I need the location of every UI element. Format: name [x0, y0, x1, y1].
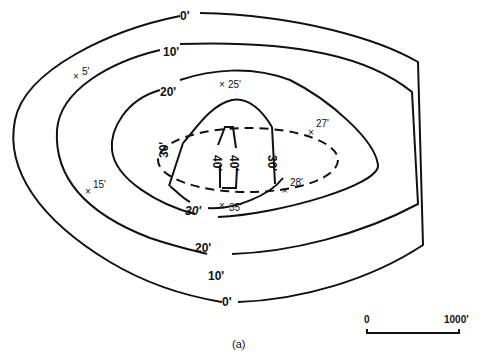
- svg-text:28': 28': [290, 177, 303, 188]
- label-20-bottom: 20': [195, 241, 211, 255]
- spot-25: × 25': [219, 79, 241, 90]
- label-10-top: 10': [163, 45, 179, 59]
- contour-30-left: [169, 143, 183, 186]
- label-20-top: 20': [160, 85, 176, 99]
- svg-text:×: ×: [282, 185, 288, 196]
- contour-20: [112, 71, 378, 217]
- label-30-left: 30': [157, 142, 171, 158]
- svg-text:×: ×: [308, 127, 314, 138]
- contour-map: 0' 0' 10' 10' 20' 20' 30' 30' 30' 40' 40…: [0, 0, 485, 362]
- label-30-right: 30': [265, 155, 279, 171]
- svg-text:27': 27': [316, 118, 329, 129]
- svg-text:×: ×: [219, 79, 225, 90]
- label-40-b: 40': [227, 155, 241, 171]
- svg-text:×: ×: [73, 71, 79, 82]
- svg-text:5': 5': [82, 66, 90, 77]
- label-30-bottom: 30': [185, 204, 202, 218]
- svg-text:0: 0: [364, 314, 370, 325]
- svg-text:1000': 1000': [444, 314, 469, 325]
- panel-label: (a): [232, 338, 245, 350]
- svg-text:15': 15': [93, 179, 106, 190]
- label-0-top: 0': [180, 9, 190, 23]
- spot-15: × 15': [85, 179, 106, 197]
- spot-35: × 35': [219, 200, 242, 213]
- svg-text:×: ×: [219, 200, 225, 211]
- label-10-bottom: 10': [208, 269, 224, 283]
- svg-text:×: ×: [85, 186, 91, 197]
- spot-27: × 27': [308, 118, 329, 138]
- scale-bar: 0 1000': [364, 314, 469, 333]
- spot-5: × 5': [73, 66, 90, 82]
- label-40-a: 40': [210, 155, 224, 171]
- svg-text:25': 25': [228, 79, 241, 90]
- spot-28: × 28': [282, 177, 303, 196]
- svg-text:35': 35': [229, 202, 242, 213]
- label-0-bottom: 0': [222, 295, 232, 309]
